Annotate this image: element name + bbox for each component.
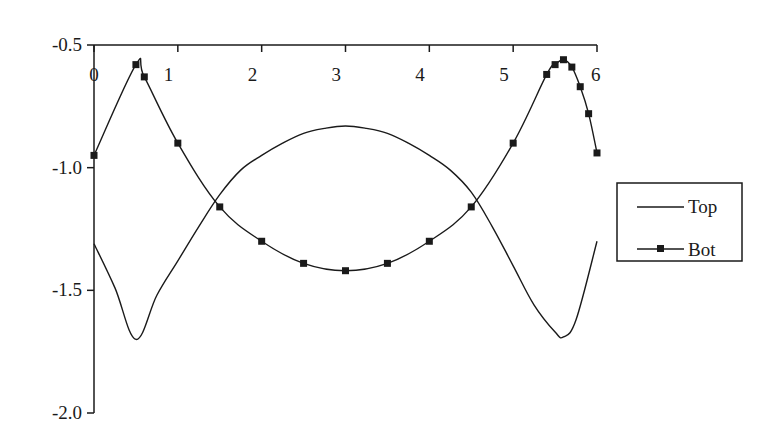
y-tick-label: -1.0 bbox=[52, 157, 82, 178]
square-marker-icon bbox=[426, 238, 433, 245]
x-tick-label: 4 bbox=[415, 64, 425, 85]
square-marker-icon bbox=[543, 71, 550, 78]
series-line bbox=[94, 126, 597, 339]
y-tick-label: -1.5 bbox=[52, 279, 82, 300]
legend: Top Bot bbox=[617, 183, 742, 261]
square-marker-icon bbox=[510, 140, 517, 147]
square-marker-icon bbox=[560, 56, 567, 63]
square-marker-icon bbox=[384, 260, 391, 267]
series-line bbox=[94, 58, 597, 270]
series-bot bbox=[91, 56, 601, 274]
square-marker-icon bbox=[342, 267, 349, 274]
legend-label-bot: Bot bbox=[688, 239, 716, 260]
square-marker-icon bbox=[300, 260, 307, 267]
square-marker-icon bbox=[174, 140, 181, 147]
square-marker-icon bbox=[132, 61, 139, 68]
square-marker-icon bbox=[468, 203, 475, 210]
square-marker-icon bbox=[141, 73, 148, 80]
square-marker-icon bbox=[568, 64, 575, 71]
y-tick-label: -0.5 bbox=[52, 34, 82, 55]
square-marker-icon bbox=[577, 83, 584, 90]
y-axis: -0.5-1.0-1.5-2.0 bbox=[52, 34, 94, 423]
square-marker-icon bbox=[594, 149, 601, 156]
line-chart: -0.5-1.0-1.5-2.0 0123456 Top Bot bbox=[0, 0, 778, 441]
x-tick-label: 0 bbox=[89, 64, 99, 85]
series-top bbox=[94, 126, 597, 339]
x-tick-label: 2 bbox=[248, 64, 258, 85]
x-tick-label: 6 bbox=[591, 64, 601, 85]
square-marker-icon bbox=[258, 238, 265, 245]
x-axis: 0123456 bbox=[89, 45, 600, 85]
square-marker-icon bbox=[585, 110, 592, 117]
x-tick-label: 3 bbox=[332, 64, 342, 85]
x-tick-label: 1 bbox=[164, 64, 174, 85]
legend-label-top: Top bbox=[688, 196, 717, 217]
y-tick-label: -2.0 bbox=[52, 402, 82, 423]
square-marker-icon bbox=[657, 245, 664, 252]
square-marker-icon bbox=[216, 203, 223, 210]
square-marker-icon bbox=[552, 61, 559, 68]
square-marker-icon bbox=[91, 152, 98, 159]
series-layer bbox=[91, 56, 601, 339]
x-tick-label: 5 bbox=[499, 64, 509, 85]
